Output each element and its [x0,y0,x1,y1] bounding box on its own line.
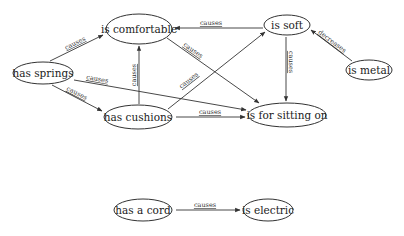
causal-diagram: causescausescausescausescausescausescaus… [0,0,404,236]
edge-label: causes [199,108,221,116]
node-label: is for sitting on [246,109,327,121]
edge-has-a-cord-to-is-electric: causes [176,201,240,210]
node-label: has a cord [115,204,171,216]
node-has-a-cord: has a cord [114,199,172,221]
node-is-metal: is metal [346,60,392,80]
edge-arrow [74,80,246,110]
edge-has-springs-to-has-cushions: causes [52,85,102,111]
edge-label: causes [86,73,109,85]
edge-has-springs-to-is-comfortable: causes [50,35,103,61]
edge-label: decreases [317,28,348,54]
node-label: has cushions [104,111,172,123]
node-has-cushions: has cushions [104,105,172,129]
edge-has-cushions-to-is-for-sitting-on: causes [176,108,245,117]
node-label: is electric [242,204,294,216]
edge-has-springs-to-is-for-sitting-on: causes [74,73,246,110]
node-is-electric: is electric [242,199,294,221]
node-label: is metal [348,64,391,76]
node-is-soft: is soft [264,15,310,35]
edge-label: causes [178,70,200,90]
edge-label: causes [130,64,138,86]
edge-label: causes [200,19,222,27]
node-has-springs: has springs [12,62,73,84]
edge-label: causes [287,51,295,73]
node-label: is comfortable [101,23,177,35]
edge-is-soft-to-is-comfortable: causes [175,19,263,28]
diagram-canvas: causescausescausescausescausescausescaus… [0,0,404,236]
edge-is-soft-to-is-for-sitting-on: causes [286,37,295,101]
edge-has-cushions-to-is-comfortable: causes [130,46,139,104]
node-is-for-sitting-on: is for sitting on [246,103,327,127]
node-label: is soft [271,19,304,31]
edge-label: causes [65,85,88,102]
node-label: has springs [12,67,73,79]
edge-is-metal-to-is-soft: decreases [311,28,352,61]
node-is-comfortable: is comfortable [101,14,177,44]
edge-label: causes [194,201,216,209]
